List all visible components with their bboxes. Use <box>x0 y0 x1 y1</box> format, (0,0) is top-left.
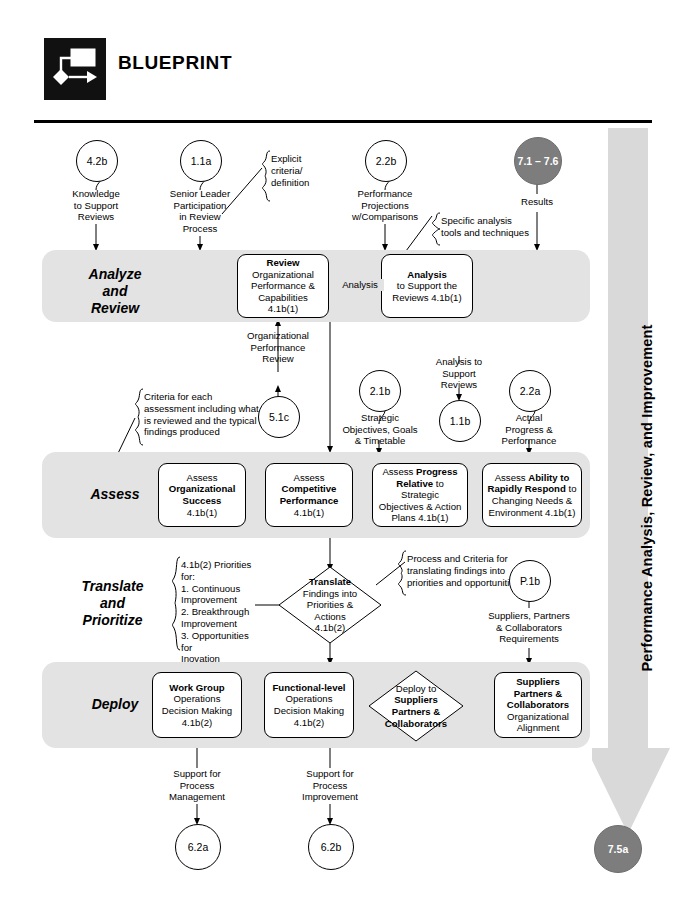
header-divider <box>34 120 652 123</box>
callout-specific-analysis-tools: Specific analysis tools and techniques <box>432 212 560 242</box>
brace-icon <box>398 550 406 596</box>
box-assess-organizational-success[interactable]: Assess Organizational Success 4.1b(1) <box>158 463 246 527</box>
label-support-for-process-management: Support for Process Management <box>150 768 244 803</box>
box-analysis-to-support-reviews[interactable]: Analysis to Support the Reviews 4.1b(1) <box>381 254 473 318</box>
label-strategic-objectives-goals: Strategic Objectives, Goals & Timetable <box>330 412 430 447</box>
page-title: BLUEPRINT <box>118 52 232 74</box>
band-label-translate: Translate and Prioritize <box>55 578 170 629</box>
brace-icon <box>135 388 143 446</box>
brace-icon <box>432 212 440 246</box>
circle-7-5a[interactable]: 7.5a <box>594 825 642 873</box>
diamond-deploy-to-suppliers[interactable]: Deploy to Suppliers Partners & Collabora… <box>368 670 464 742</box>
diamond-translate-findings[interactable]: Translate Findings into Priorities & Act… <box>278 566 382 644</box>
label-senior-leader-participation: Senior Leader Participation in Review Pr… <box>152 188 248 234</box>
label-knowledge-to-support-reviews: Knowledge to Support Reviews <box>50 188 142 223</box>
brace-icon <box>262 150 270 202</box>
band-label-assess: Assess <box>60 486 170 503</box>
blueprint-logo-icon <box>44 38 106 100</box>
label-organizational-performance-review: Organizational Performance Review <box>232 330 324 365</box>
label-analysis-connector: Analysis <box>336 279 384 291</box>
label-performance-projections: Performance Projections w/Comparisons <box>332 188 438 223</box>
label-actual-progress-performance: Actual Progress & Performance <box>485 412 573 447</box>
circle-p-1b[interactable]: P.1b <box>509 560 551 602</box>
circle-7-1-7-6[interactable]: 7.1 – 7.6 <box>514 137 562 185</box>
box-suppliers-partners-collaborators[interactable]: Suppliers Partners & Collaborators Organ… <box>494 672 582 738</box>
box-review-organizational-performance[interactable]: Review Organizational Performance & Capa… <box>237 254 329 318</box>
callout-criteria-for-each-assessment: Criteria for each assessment including w… <box>135 388 281 441</box>
circle-6-2a[interactable]: 6.2a <box>175 824 221 870</box>
circle-4-2b[interactable]: 4.2b <box>76 140 118 182</box>
box-assess-progress-relative[interactable]: Assess Progress Relative to Strategic Ob… <box>372 463 468 527</box>
circle-2-2a[interactable]: 2.2a <box>509 370 551 412</box>
circle-1-1b[interactable]: 1.1b <box>439 400 481 442</box>
label-analysis-to-support-reviews: Analysis to Support Reviews <box>424 356 494 391</box>
box-assess-ability-rapidly-respond[interactable]: Assess Ability to Rapidly Respond to Cha… <box>482 463 582 527</box>
callout-priorities-for: 4.1b(2) Priorities for: 1. Continuous Im… <box>172 556 264 668</box>
circle-2-1b[interactable]: 2.1b <box>359 370 401 412</box>
band-label-analyze: Analyze and Review <box>60 266 170 317</box>
brace-icon <box>172 556 180 652</box>
performance-improvement-arrow: Performance Analysis, Review, and Improv… <box>592 128 689 868</box>
label-results: Results <box>505 196 569 208</box>
label-suppliers-partners-requirements: Suppliers, Partners & Collaborators Requ… <box>473 610 585 645</box>
circle-6-2b[interactable]: 6.2b <box>308 824 354 870</box>
box-functional-level-operations[interactable]: Functional-level Operations Decision Mak… <box>264 672 354 738</box>
box-assess-competitive-performance[interactable]: Assess Competitive Performance 4.1b(1) <box>265 463 353 527</box>
vertical-arrow-label: Performance Analysis, Review, and Improv… <box>627 128 667 868</box>
circle-1-1a[interactable]: 1.1a <box>180 140 222 182</box>
circle-2-2b[interactable]: 2.2b <box>365 140 407 182</box>
callout-explicit-criteria: Explicit criteria/ definition <box>262 150 338 191</box>
label-support-for-process-improvement: Support for Process Improvement <box>283 768 377 803</box>
box-work-group-operations[interactable]: Work Group Operations Decision Making 4.… <box>152 672 242 738</box>
